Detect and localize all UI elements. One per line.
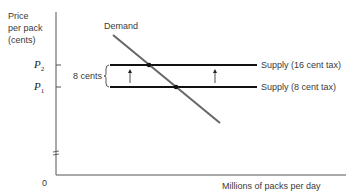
- supply-16-label: Supply (16 cent tax): [261, 60, 341, 70]
- equilibrium-point-p1: [174, 85, 179, 90]
- bracket: [104, 65, 109, 87]
- bracket-label: 8 cents: [73, 71, 103, 81]
- chart: Price per pack (cents) 0 Millions of pac…: [0, 0, 358, 196]
- origin-label: 0: [42, 178, 47, 188]
- demand-label: Demand: [104, 21, 138, 31]
- y-axis-label-line1: Price: [8, 11, 29, 21]
- equilibrium-point-p2: [147, 63, 152, 68]
- supply-8-label: Supply (8 cent tax): [261, 82, 336, 92]
- y-axis-label-line3: (cents): [8, 35, 36, 45]
- x-axis-label: Millions of packs per day: [222, 181, 321, 191]
- y-axis-label-line2: per pack: [8, 23, 43, 33]
- tick-label-p2: P2: [33, 58, 45, 73]
- shift-arrow-left: [128, 69, 132, 83]
- shift-arrow-right: [213, 69, 217, 83]
- tick-label-p1: P1: [33, 80, 45, 95]
- demand-line: [113, 35, 220, 123]
